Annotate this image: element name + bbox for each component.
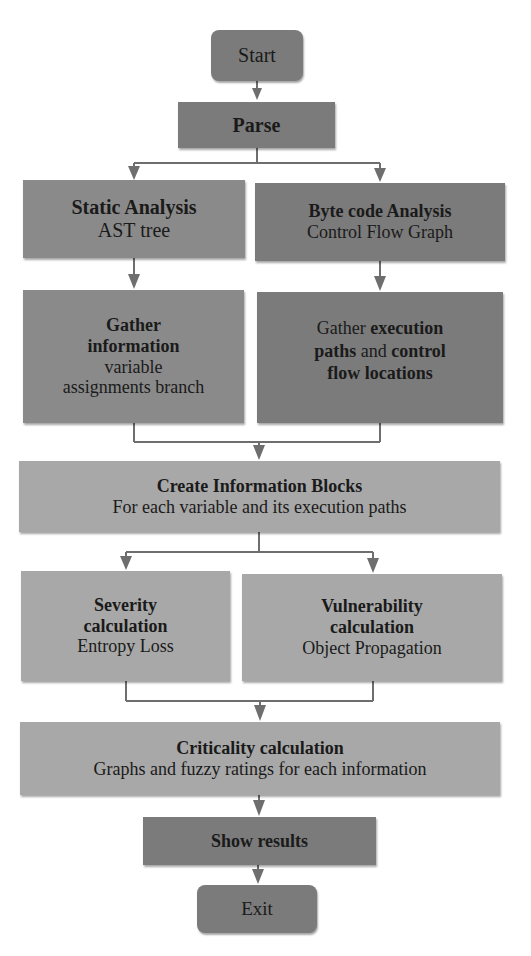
create-information-blocks-node: Create Information Blocks For each varia… <box>19 461 500 532</box>
vulnerability-title-1: Vulnerability <box>321 596 422 617</box>
parse-label: Parse <box>233 114 281 137</box>
start-label: Start <box>238 44 276 67</box>
parse-node: Parse <box>178 102 335 148</box>
bytecode-analysis-subtitle: Control Flow Graph <box>307 222 453 243</box>
create-info-subtitle: For each variable and its execution path… <box>113 497 407 518</box>
gather-exec-line1-bold: execution <box>370 318 443 338</box>
gather-info-body-2: assignments branch <box>63 377 204 398</box>
exit-label: Exit <box>241 898 273 920</box>
gather-info-title-1: Gather <box>106 315 161 336</box>
criticality-subtitle: Graphs and fuzzy ratings for each inform… <box>94 759 427 780</box>
gather-exec-line2-plain: and <box>356 341 391 361</box>
criticality-title: Criticality calculation <box>176 738 343 759</box>
severity-subtitle: Entropy Loss <box>77 636 174 657</box>
static-analysis-node: Static Analysis AST tree <box>23 180 245 258</box>
gather-info-title-2: information <box>88 336 180 357</box>
vulnerability-title-2: calculation <box>330 617 414 638</box>
gather-execution-paths-node: Gather execution paths and control flow … <box>257 292 503 423</box>
gather-exec-line2-bold-a: paths <box>314 341 356 361</box>
vulnerability-calculation-node: Vulnerability calculation Object Propaga… <box>242 574 502 681</box>
gather-exec-line-3: flow locations <box>327 363 433 384</box>
gather-exec-line1-plain: Gather <box>317 318 370 338</box>
vulnerability-subtitle: Object Propagation <box>302 638 441 659</box>
start-node: Start <box>211 30 303 81</box>
bytecode-analysis-title: Byte code Analysis <box>308 201 451 222</box>
criticality-calculation-node: Criticality calculation Graphs and fuzzy… <box>20 722 500 795</box>
exit-node: Exit <box>197 885 317 933</box>
gather-exec-line2-bold-b: control <box>391 341 446 361</box>
bytecode-analysis-node: Byte code Analysis Control Flow Graph <box>255 183 505 261</box>
static-analysis-title: Static Analysis <box>71 196 196 219</box>
gather-exec-line3-bold: flow locations <box>327 363 433 383</box>
severity-title-1: Severity <box>94 595 157 616</box>
gather-exec-line-1: Gather execution <box>317 318 443 339</box>
create-info-title: Create Information Blocks <box>157 476 363 497</box>
show-results-node: Show results <box>143 817 376 865</box>
static-analysis-subtitle: AST tree <box>98 219 170 242</box>
severity-calculation-node: Severity calculation Entropy Loss <box>21 571 230 681</box>
gather-information-node: Gather information variable assignments … <box>23 290 244 423</box>
severity-title-2: calculation <box>84 616 168 637</box>
gather-exec-line-2: paths and control <box>314 341 446 362</box>
gather-info-body-1: variable <box>105 357 163 378</box>
show-results-label: Show results <box>211 831 308 852</box>
